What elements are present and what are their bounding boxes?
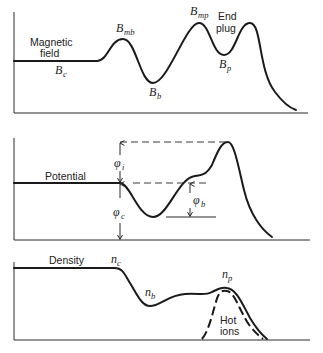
label-phi-c: φ c (113, 205, 125, 221)
label-n-p: n p (222, 267, 232, 283)
tandem-mirror-profile-diagram: Magnetic field B c B mb B b B mp B p End… (0, 0, 323, 353)
svg-text:mb: mb (124, 27, 134, 37)
svg-text:φ: φ (113, 205, 120, 219)
label-n-c: n c (111, 252, 121, 268)
hot-ions-label-line2: ions (220, 325, 239, 337)
potential-title: Potential (45, 170, 86, 182)
density-panel: Density n c n b n p Hot ions (14, 252, 310, 340)
svg-text:c: c (63, 69, 67, 79)
svg-text:p: p (226, 63, 231, 73)
svg-text:B: B (55, 63, 63, 77)
svg-text:c: c (117, 258, 121, 268)
svg-text:B: B (149, 85, 157, 99)
density-title: Density (49, 254, 85, 266)
svg-text:φ: φ (114, 156, 121, 170)
svg-text:φ: φ (193, 193, 200, 207)
svg-text:b: b (157, 91, 161, 101)
svg-text:c: c (121, 211, 125, 221)
end-plug-label-line2: plug (216, 22, 236, 34)
svg-text:mp: mp (198, 10, 208, 20)
svg-text:b: b (201, 199, 205, 209)
svg-text:p: p (227, 273, 232, 283)
svg-text:B: B (190, 4, 198, 18)
end-plug-label-line1: End (218, 10, 237, 22)
label-b-mb: B mb (116, 21, 134, 37)
svg-text:B: B (219, 57, 227, 71)
svg-text:i: i (122, 162, 125, 172)
magnetic-field-panel: Magnetic field B c B mb B b B mp B p End… (14, 4, 308, 113)
label-phi-i: φ i (114, 156, 125, 172)
label-phi-b: φ b (193, 193, 205, 209)
potential-curve (14, 142, 272, 237)
label-b-c: B c (55, 63, 67, 79)
label-b-mp: B mp (190, 4, 208, 20)
label-n-b: n b (145, 285, 155, 301)
potential-panel: Potential φ i φ c φ b (14, 138, 310, 240)
svg-text:b: b (151, 291, 155, 301)
label-b-p: B p (219, 57, 231, 73)
svg-text:B: B (116, 21, 124, 35)
label-b-b: B b (149, 85, 161, 101)
magnetic-field-title-line2: field (40, 47, 59, 59)
